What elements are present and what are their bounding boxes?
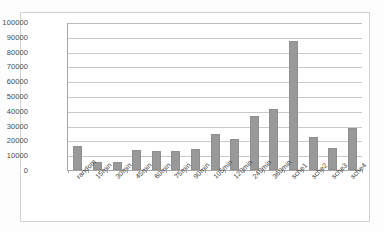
chart-frame: 1000009000080000700006000050000400003000… <box>20 12 370 222</box>
bar <box>132 150 141 170</box>
y-axis-tick-label: 90000 <box>0 34 28 42</box>
y-axis-tick-label: 0 <box>0 167 28 175</box>
bar <box>309 137 318 170</box>
gridline <box>68 127 362 128</box>
bar <box>211 134 220 170</box>
gridline <box>68 67 362 68</box>
plot-area <box>67 23 361 171</box>
gridline <box>68 38 362 39</box>
y-axis-tick-label: 70000 <box>0 63 28 71</box>
bar <box>289 41 298 170</box>
y-axis-tick-label: 20000 <box>0 137 28 145</box>
bar <box>348 128 357 170</box>
bar <box>73 146 82 170</box>
y-axis-tick-label: 80000 <box>0 49 28 57</box>
y-axis-tick-label: 60000 <box>0 78 28 86</box>
y-axis-tick-label: 50000 <box>0 93 28 101</box>
gridline <box>68 23 362 24</box>
gridline <box>68 53 362 54</box>
y-axis-tick-label: 10000 <box>0 152 28 160</box>
screenshot-canvas: 1000009000080000700006000050000400003000… <box>0 0 384 232</box>
gridline <box>68 82 362 83</box>
y-axis-tick-label: 30000 <box>0 123 28 131</box>
y-axis-tick-label: 40000 <box>0 108 28 116</box>
x-axis-labels: random15min30min45min60min75min90min105m… <box>67 171 361 219</box>
gridline <box>68 97 362 98</box>
y-axis-tick-label: 100000 <box>0 19 28 27</box>
gridline <box>68 112 362 113</box>
